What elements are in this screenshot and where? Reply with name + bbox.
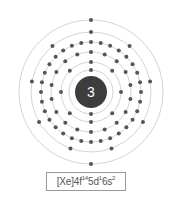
electron [54, 110, 58, 114]
electron [128, 97, 132, 101]
electron [89, 30, 93, 34]
electron [128, 83, 132, 87]
electron [70, 136, 74, 140]
electron [50, 83, 54, 87]
electron [61, 48, 65, 52]
electron [63, 59, 67, 63]
electron [110, 146, 114, 150]
electron [40, 80, 44, 84]
electron [79, 41, 83, 45]
electron [138, 80, 142, 84]
electron [75, 128, 79, 132]
electron [108, 136, 112, 140]
electron [131, 118, 135, 122]
electron [89, 162, 93, 166]
electron [40, 100, 44, 104]
electron [108, 44, 112, 48]
nucleus-label: 3 [87, 84, 95, 100]
electron [124, 110, 128, 114]
electron [30, 80, 34, 84]
electron [115, 59, 119, 63]
electron [124, 55, 128, 59]
electron [79, 139, 83, 143]
electron [37, 120, 41, 124]
bohr-diagram: 3 [0, 0, 177, 170]
electron [68, 69, 72, 73]
electron [110, 69, 114, 73]
electron [89, 68, 93, 72]
electron [54, 125, 58, 129]
electron [70, 44, 74, 48]
electron-configuration: [Xe] 4f14 5d1 6s2 [46, 172, 126, 191]
electron [124, 70, 128, 74]
electron [117, 132, 121, 136]
electron [47, 62, 51, 66]
electron [139, 90, 143, 94]
electron [75, 52, 79, 56]
electron [89, 130, 93, 134]
electron [119, 90, 123, 94]
electron [89, 120, 93, 124]
electron [68, 111, 72, 115]
electron [47, 118, 51, 122]
electron [99, 139, 103, 143]
electron [103, 52, 107, 56]
electron [89, 112, 93, 116]
config-6s: 6s2 [102, 176, 115, 187]
electron [141, 120, 145, 124]
electron [135, 109, 139, 113]
electron [43, 109, 47, 113]
config-4f: 4f14 [74, 176, 88, 187]
electron [89, 18, 93, 22]
electron [61, 132, 65, 136]
electron [148, 80, 152, 84]
electron [63, 121, 67, 125]
electron [39, 90, 43, 94]
config-base: [Xe] [57, 176, 74, 187]
electron [89, 40, 93, 44]
electron [103, 128, 107, 132]
electron [135, 71, 139, 75]
electron [50, 97, 54, 101]
electron [99, 41, 103, 45]
electron [54, 55, 58, 59]
electron [54, 70, 58, 74]
electron [89, 50, 93, 54]
electron [131, 62, 135, 66]
electron [89, 140, 93, 144]
electron [138, 100, 142, 104]
electron [59, 90, 63, 94]
electron [50, 44, 54, 48]
electron [89, 60, 93, 64]
config-5d: 5d1 [88, 176, 102, 187]
electron [128, 44, 132, 48]
electron [110, 111, 114, 115]
electron [115, 121, 119, 125]
electron [43, 71, 47, 75]
electron [124, 125, 128, 129]
electron [117, 48, 121, 52]
electron [68, 146, 72, 150]
